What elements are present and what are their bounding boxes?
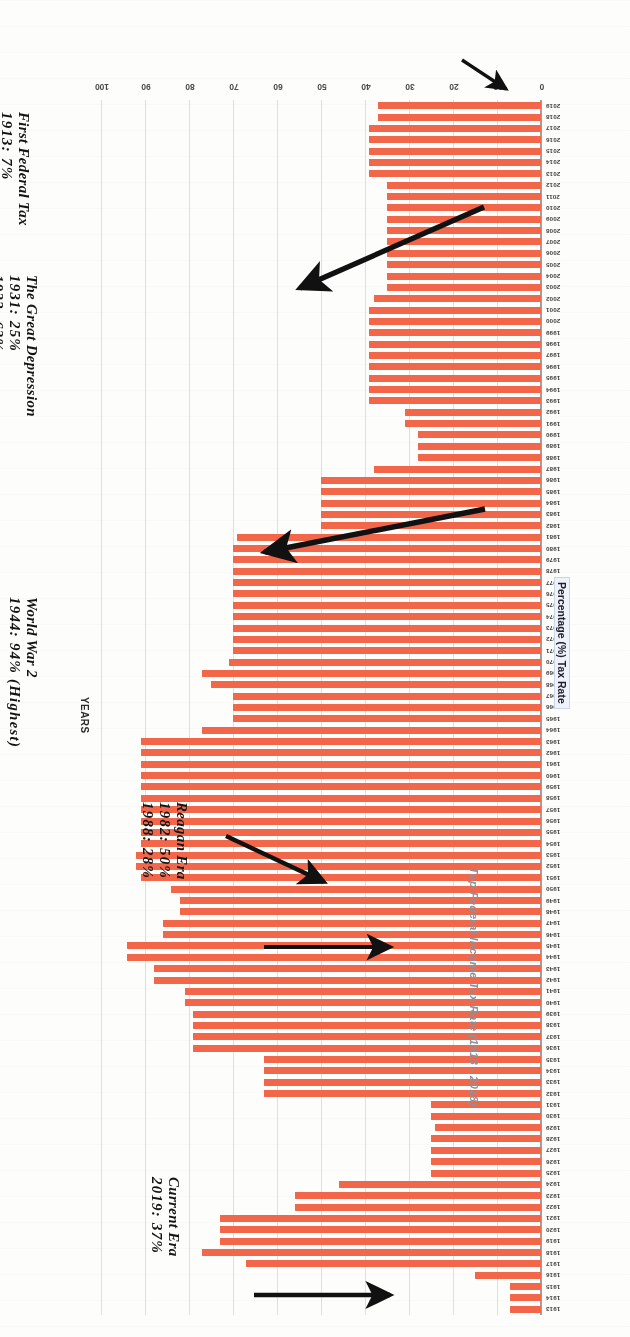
year-tick-label: 1978 [546,568,568,575]
bar [246,1260,541,1267]
bar [405,420,541,427]
bar [369,363,541,370]
annotation-world-war-2: World War 2 1944: 94% (Highest) [6,597,40,748]
year-tick-label: 1962 [546,750,568,757]
bar [369,136,541,143]
bar [154,965,541,972]
year-tick-label: 2006 [546,250,568,257]
bar [163,931,541,938]
year-tick-label: 1999 [546,330,568,337]
bar [202,670,541,677]
bar [233,568,541,575]
bar [220,1226,541,1233]
bar [431,1147,541,1154]
bar [141,840,541,847]
bar [321,500,541,507]
year-tick-label: 2001 [546,307,568,314]
bar [387,238,541,245]
year-tick-label: 1965 [546,716,568,723]
year-tick-label: 1935 [546,1057,568,1064]
year-tick-label: 1956 [546,818,568,825]
year-tick-label: 1981 [546,534,568,541]
bar [431,1101,541,1108]
years-axis-title: YEARS [79,697,90,733]
year-tick-label: 2011 [546,194,568,201]
bar [369,125,541,132]
year-tick-label: 2000 [546,318,568,325]
bar [141,829,541,836]
percentage-tick-0: 0 [540,82,545,92]
annotation-great-depression-line2: 1932: 63% [0,275,6,417]
bar [202,1249,541,1256]
year-tick-label: 2010 [546,205,568,212]
percentage-tick-100: 100 [95,82,109,92]
year-tick-label: 1992 [546,409,568,416]
bar [141,818,541,825]
year-tick-label: 1988 [546,455,568,462]
percentage-axis-title: Percentage (%) Tax Rate [554,577,570,709]
year-tick-label: 2002 [546,296,568,303]
percentage-tick-20: 20 [449,82,458,92]
year-tick-label: 2014 [546,159,568,166]
year-tick-label: 1990 [546,432,568,439]
bar [369,307,541,314]
year-tick-label: 1964 [546,727,568,734]
year-tick-label: 2003 [546,284,568,291]
year-tick-label: 1932 [546,1091,568,1098]
bar [233,602,541,609]
year-tick-label: 1982 [546,523,568,530]
bar [233,693,541,700]
annotation-world-war-2-heading: World War 2 [23,597,40,748]
bar [405,409,541,416]
year-tick-label: 1949 [546,898,568,905]
annotation-current-era-line1: 2019: 37% [148,1177,165,1257]
bar [431,1113,541,1120]
bar [141,806,541,813]
year-tick-label: 2013 [546,171,568,178]
year-tick-label: 1989 [546,443,568,450]
bar [510,1294,541,1301]
year-tick-label: 1920 [546,1227,568,1234]
bar [369,386,541,393]
percentage-tick-30: 30 [405,82,414,92]
bar [180,908,541,915]
bar [202,727,541,734]
annotation-current-era-heading: Current Era [165,1177,182,1257]
year-tick-label: 2008 [546,228,568,235]
year-tick-label: 1950 [546,886,568,893]
percentage-tick-40: 40 [361,82,370,92]
year-tick-label: 1993 [546,398,568,405]
year-tick-label: 1985 [546,489,568,496]
bar [237,534,541,541]
year-tick-label: 1963 [546,739,568,746]
bar [418,454,541,461]
bar [154,977,541,984]
year-tick-label: 1928 [546,1136,568,1143]
bar [141,772,541,779]
year-tick-label: 1995 [546,375,568,382]
year-tick-label: 2004 [546,273,568,280]
year-tick-label: 1917 [546,1261,568,1268]
bar [369,397,541,404]
year-tick-label: 1960 [546,773,568,780]
year-tick-label: 1987 [546,466,568,473]
bar [233,556,541,563]
bar [163,920,541,927]
year-tick-label: 1957 [546,807,568,814]
year-tick-label: 1942 [546,977,568,984]
bar [136,852,541,859]
bar [431,1158,541,1165]
year-tick-label: 1986 [546,477,568,484]
percentage-axis: 0102030405060708090100 [102,74,542,92]
bar [431,1170,541,1177]
year-tick-label: 1914 [546,1295,568,1302]
percentage-tick-10: 10 [493,82,502,92]
bar [264,1067,541,1074]
year-tick-label: 1939 [546,1011,568,1018]
bar [374,466,541,473]
year-tick-label: 2015 [546,148,568,155]
year-tick-label: 2018 [546,114,568,121]
year-tick-label: 2005 [546,262,568,269]
year-tick-label: 1941 [546,988,568,995]
year-tick-label: 1918 [546,1250,568,1257]
